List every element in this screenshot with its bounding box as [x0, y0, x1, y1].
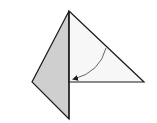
shaded-left-panel: [32, 11, 69, 119]
white-right-flap: [69, 11, 144, 82]
origami-fold-diagram: [0, 0, 157, 123]
